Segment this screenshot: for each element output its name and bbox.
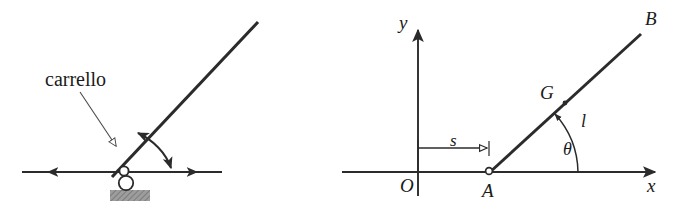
distance-s-label: s <box>450 131 457 150</box>
x-axis-label: x <box>646 175 656 196</box>
hatched-base-block <box>110 190 150 201</box>
point-a-label: A <box>480 180 494 201</box>
centroid-g-marker <box>563 101 568 106</box>
left-panel: carrello <box>22 22 258 201</box>
inclined-bar <box>112 22 258 177</box>
centroid-g-label: G <box>540 82 554 103</box>
point-a-marker <box>486 168 493 175</box>
pin-circle <box>119 166 128 175</box>
figure-canvas: carrello y x O A B G <box>0 0 683 203</box>
length-l-label: l <box>581 111 586 131</box>
carrello-label: carrello <box>45 68 106 90</box>
point-b-label: B <box>645 8 657 29</box>
origin-label: O <box>400 175 414 196</box>
right-panel: y x O A B G l s θ <box>342 8 657 201</box>
roller-circle <box>119 176 133 190</box>
y-axis-label: y <box>397 12 408 33</box>
rotation-double-arc-arrow <box>138 133 171 168</box>
mechanics-figure: carrello y x O A B G <box>0 0 683 203</box>
angle-theta-label: θ <box>563 139 572 159</box>
leader-line-with-hollow-arrowhead <box>80 92 116 146</box>
